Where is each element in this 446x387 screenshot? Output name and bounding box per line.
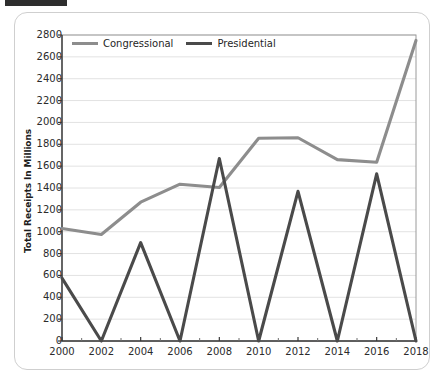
- chart-legend: CongressionalPresidential: [72, 38, 276, 49]
- legend-label-presidential: Presidential: [217, 38, 275, 49]
- legend-swatch-presidential: [186, 42, 212, 45]
- legend-entry-congressional: Congressional: [72, 38, 173, 49]
- legend-swatch-congressional: [72, 42, 98, 45]
- series-line-congressional: [62, 40, 416, 234]
- legend-label-congressional: Congressional: [103, 38, 173, 49]
- plot-canvas: [0, 0, 446, 387]
- series-line-presidential: [62, 158, 416, 341]
- line-chart: Total Receipts In Millions 0200400600800…: [0, 0, 446, 387]
- legend-entry-presidential: Presidential: [186, 38, 275, 49]
